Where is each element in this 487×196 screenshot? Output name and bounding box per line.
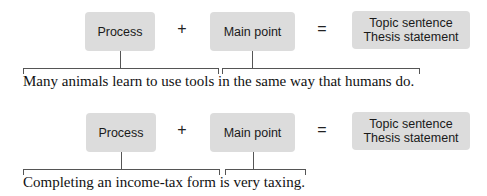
process-span: Many animals learn to use tools xyxy=(23,73,214,89)
diagram-row-1: Process + Main point = Topic sentence Th… xyxy=(0,0,487,98)
diagram-row-2: Process + Main point = Topic sentence Th… xyxy=(0,101,487,196)
example-sentence: Many animals learn to use tools in the s… xyxy=(23,73,414,90)
example-sentence: Completing an income-tax form is very ta… xyxy=(23,174,305,191)
process-span: Completing an income-tax form xyxy=(23,174,216,190)
main-point-span: in the same way that humans do. xyxy=(218,73,414,89)
main-point-span: is very taxing. xyxy=(220,174,305,190)
